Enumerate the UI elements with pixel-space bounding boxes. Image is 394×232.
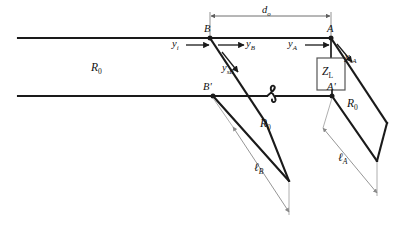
stub-B-conductor-1 [210, 38, 266, 123]
transmission-line-diagram [0, 0, 394, 232]
label-point-B: B [204, 24, 210, 35]
label-admittance-ysA: ysA [345, 52, 357, 65]
label-point-B-prime: B' [203, 82, 212, 93]
label-stub-B-length: ℓB [254, 162, 263, 176]
wire-crossover-hop [267, 86, 276, 102]
label-stub-A-R0: R0 [347, 98, 358, 112]
stub-A-short-circuit-end [377, 123, 387, 161]
label-point-A-prime: A' [327, 82, 336, 93]
stub-A-length-extension-near [323, 98, 332, 128]
label-load-impedance-ZL: ZL [322, 66, 333, 80]
label-admittance-yA: yA [288, 39, 297, 52]
stub-B-conductor-2 [213, 96, 289, 181]
stub-A-length-dimension-arrow [323, 128, 377, 193]
label-admittance-ysB: ysB [222, 63, 234, 76]
stub-B-length-extension-near [213, 98, 233, 127]
label-stub-A-length: ℓA [338, 152, 347, 166]
label-stub-B-R0: R0 [260, 118, 271, 132]
label-admittance-yB: yB [246, 39, 255, 52]
figure-canvas: R0 do B B' A A' yi yB yA ysB ysA ZL R0 R… [0, 0, 394, 232]
label-point-A: A [327, 24, 333, 35]
label-main-line-R0: R0 [91, 62, 102, 76]
label-distance-do: do [262, 5, 271, 18]
label-admittance-yi: yi [172, 39, 179, 52]
